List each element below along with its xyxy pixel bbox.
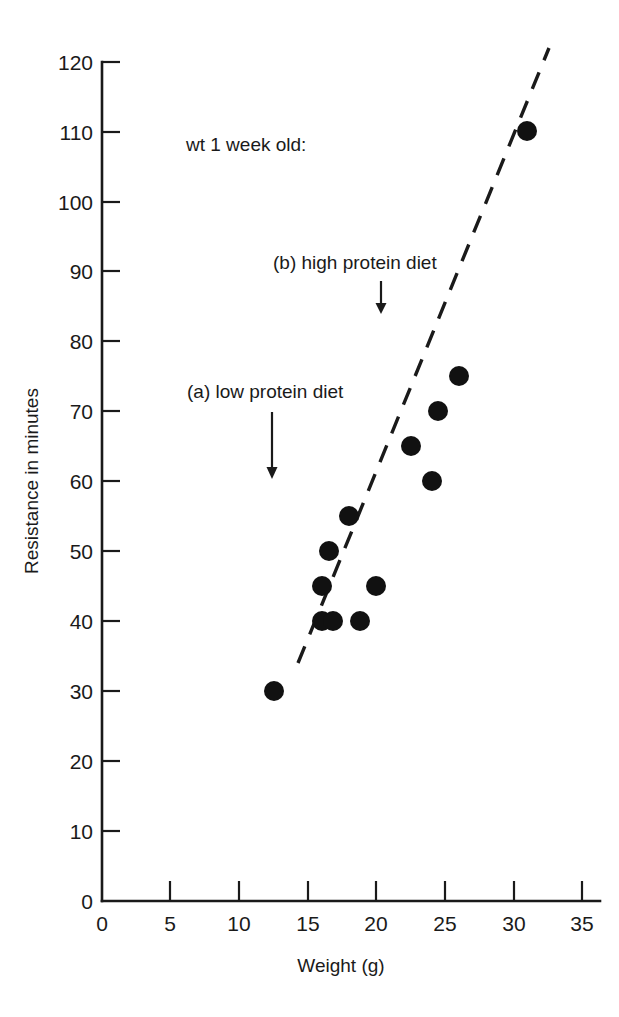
chart-background — [0, 0, 619, 1017]
x-tick-label-10: 10 — [227, 912, 250, 935]
x-tick-label-15: 15 — [296, 912, 319, 935]
annotation-low-protein-label: (a) low protein diet — [187, 381, 344, 402]
x-tick-label-25: 25 — [433, 912, 456, 935]
y-tick-label-30: 30 — [70, 680, 93, 703]
x-tick-label-35: 35 — [570, 912, 593, 935]
annotation-high-protein-label: (b) high protein diet — [273, 252, 437, 273]
y-tick-label-120: 120 — [58, 51, 93, 74]
y-tick-label-20: 20 — [70, 750, 93, 773]
y-tick-label-10: 10 — [70, 820, 93, 843]
x-tick-label-0: 0 — [96, 912, 108, 935]
y-tick-label-100: 100 — [58, 191, 93, 214]
data-point — [319, 541, 339, 561]
data-point — [517, 121, 537, 141]
data-point — [366, 576, 386, 596]
y-tick-label-90: 90 — [70, 260, 93, 283]
y-tick-label-60: 60 — [70, 470, 93, 493]
data-point — [350, 611, 370, 631]
x-tick-label-20: 20 — [364, 912, 387, 935]
y-tick-label-50: 50 — [70, 540, 93, 563]
scatter-chart-figure: 120 110 100 90 80 70 60 50 40 30 20 10 0 — [0, 0, 619, 1017]
y-tick-label-0: 0 — [81, 890, 93, 913]
annotation-heading: wt 1 week old: — [185, 134, 306, 155]
y-axis-title: Resistance in minutes — [21, 388, 42, 574]
data-point — [422, 471, 442, 491]
x-tick-label-30: 30 — [502, 912, 525, 935]
data-point — [449, 366, 469, 386]
data-point — [401, 436, 421, 456]
y-tick-label-80: 80 — [70, 330, 93, 353]
data-point — [312, 576, 332, 596]
y-tick-label-40: 40 — [70, 610, 93, 633]
data-point — [339, 506, 359, 526]
y-tick-label-70: 70 — [70, 400, 93, 423]
data-point — [264, 681, 284, 701]
chart-canvas: 120 110 100 90 80 70 60 50 40 30 20 10 0 — [0, 0, 619, 1017]
data-point — [323, 611, 343, 631]
x-tick-label-5: 5 — [164, 912, 176, 935]
data-point — [428, 401, 448, 421]
x-axis-title: Weight (g) — [297, 955, 384, 976]
y-tick-label-110: 110 — [60, 121, 93, 144]
